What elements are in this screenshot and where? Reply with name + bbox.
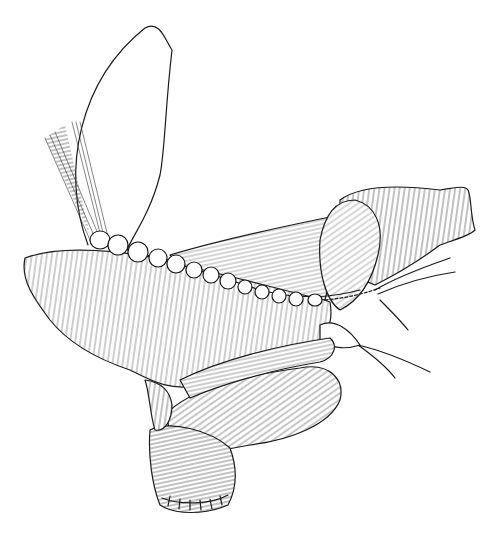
illustration-canvas [0,0,500,537]
intestine-line-drawing [0,0,500,537]
retracted-thread-loop [45,26,172,250]
right-bowel-segment [320,187,475,310]
left-mesentery-pouch [145,380,172,430]
